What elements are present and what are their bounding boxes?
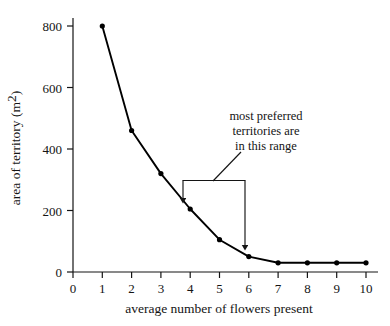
y-axis-title: area of territory (m2) — [4, 91, 23, 205]
y-tick-label-600: 600 — [43, 81, 63, 96]
axis-lines — [73, 18, 378, 272]
annotation-line-2: territories are — [233, 124, 300, 138]
data-point — [363, 260, 368, 265]
data-point — [158, 171, 163, 176]
y-tick-label-200: 200 — [43, 204, 63, 219]
annotation-bracket — [183, 152, 246, 246]
y-tick-label-800: 800 — [43, 19, 63, 34]
data-point — [188, 206, 193, 211]
line-chart: 0 200 400 600 800 0 1 2 3 4 5 6 — [0, 0, 390, 326]
x-tick-label-6: 6 — [246, 281, 253, 296]
y-axis-ticks — [67, 26, 73, 272]
x-axis-tick-labels: 0 1 2 3 4 5 6 7 8 9 10 — [70, 281, 373, 296]
x-tick-label-1: 1 — [99, 281, 106, 296]
x-tick-label-2: 2 — [128, 281, 135, 296]
x-axis-title: average number of flowers present — [125, 301, 313, 316]
y-tick-label-0: 0 — [56, 265, 63, 280]
x-tick-label-4: 4 — [187, 281, 194, 296]
data-point — [305, 260, 310, 265]
data-point — [334, 260, 339, 265]
x-tick-label-10: 10 — [360, 281, 373, 296]
x-tick-label-0: 0 — [70, 281, 77, 296]
y-tick-label-400: 400 — [43, 142, 63, 157]
data-point — [246, 254, 251, 259]
x-tick-label-9: 9 — [333, 281, 340, 296]
y-axis-tick-labels: 0 200 400 600 800 — [43, 19, 63, 280]
y-axis-title-close: ) — [8, 91, 23, 96]
x-tick-label-3: 3 — [158, 281, 165, 296]
data-point — [100, 23, 105, 28]
annotation-text: most preferred territories are in this r… — [229, 109, 303, 153]
svg-text:area of territory (m2): area of territory (m2) — [4, 91, 23, 205]
x-tick-label-5: 5 — [216, 281, 223, 296]
data-point — [217, 237, 222, 242]
x-axis-ticks — [73, 272, 366, 278]
annotation-line-1: most preferred — [229, 109, 303, 123]
chart-figure: 0 200 400 600 800 0 1 2 3 4 5 6 — [0, 0, 390, 326]
y-axis-title-superscript: 2 — [4, 95, 19, 102]
data-point — [129, 128, 134, 133]
y-axis-title-base: area of territory (m — [8, 102, 23, 206]
annotation-line-3: in this range — [235, 139, 297, 153]
data-point — [276, 260, 281, 265]
x-tick-label-8: 8 — [304, 281, 311, 296]
x-tick-label-7: 7 — [275, 281, 282, 296]
annotation-leader-line — [213, 152, 241, 181]
